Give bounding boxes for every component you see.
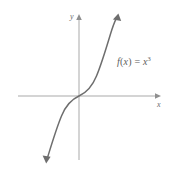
curve-lower-arrowhead xyxy=(43,156,51,164)
graph-canvas: y x xyxy=(0,0,173,171)
x-axis-label: x xyxy=(156,100,161,109)
close-paren: ) xyxy=(128,56,132,67)
y-axis-label: y xyxy=(69,12,74,21)
cubic-function-figure: y x f(x) = x3 xyxy=(0,0,173,171)
equals-sign: = xyxy=(134,56,140,67)
cubic-curve xyxy=(48,19,117,158)
x-axis-arrowhead xyxy=(155,93,161,99)
curve-upper-arrowhead xyxy=(113,14,121,21)
y-axis-arrowhead xyxy=(76,14,82,20)
function-exponent: 3 xyxy=(148,55,151,62)
function-equation-label: f(x) = x3 xyxy=(117,56,151,67)
